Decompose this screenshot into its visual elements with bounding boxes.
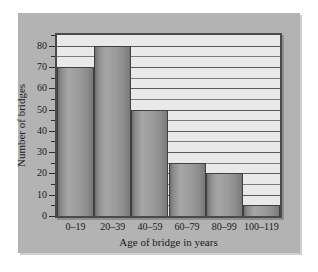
y-axis-tick-label: 10 (37, 190, 47, 200)
figure: Number of bridges 01020304050607080 0–19… (0, 0, 318, 272)
y-axis-tick-label: 20 (37, 168, 47, 178)
y-axis-tick-label: 80 (37, 41, 47, 51)
y-axis-tick-label: 70 (37, 62, 47, 72)
plot-area (55, 33, 282, 218)
bar-60-79 (169, 163, 206, 216)
x-axis-tick-label: 0–19 (57, 220, 94, 234)
x-axis-tick-label: 60–79 (169, 220, 206, 234)
y-axis-tick-label: 60 (37, 83, 47, 93)
x-axis-tick-labels: 0–1920–3940–5960–7980–99100–119 (55, 220, 282, 234)
x-axis-tick-label: 20–39 (94, 220, 131, 234)
y-axis: 01020304050607080 (0, 33, 55, 218)
bar-20-39 (94, 46, 131, 216)
y-axis-tick-label: 50 (37, 105, 47, 115)
bar-0-19 (57, 67, 94, 216)
bar-80-99 (206, 173, 243, 216)
bar-40-59 (131, 110, 168, 216)
x-axis-tick-label: 40–59 (131, 220, 168, 234)
x-axis-title: Age of bridge in years (55, 236, 282, 249)
x-axis-tick-label: 80–99 (206, 220, 243, 234)
bar-100-119 (243, 205, 280, 216)
y-axis-tick-label: 30 (37, 147, 47, 157)
bar-series (57, 35, 280, 216)
y-axis-tick-label: 40 (37, 126, 47, 136)
x-axis-tick-label: 100–119 (243, 220, 280, 234)
y-axis-tick-label: 0 (42, 211, 47, 221)
